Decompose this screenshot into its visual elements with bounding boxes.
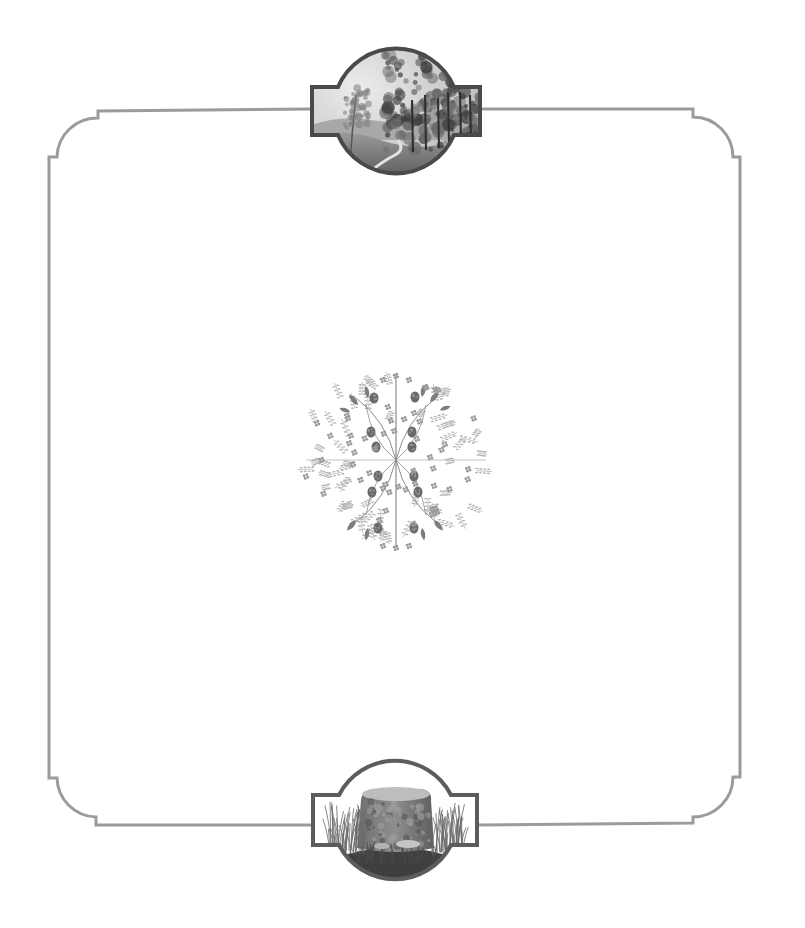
flower-petal	[467, 476, 470, 479]
fern-leaflet	[328, 462, 331, 464]
stump-texture	[416, 803, 424, 811]
flower-petal	[432, 486, 435, 489]
flower-petal	[405, 419, 408, 422]
flower-petal	[386, 407, 389, 410]
raspberry-drupelet	[412, 529, 414, 531]
fern-leaflet	[441, 424, 444, 426]
fern-leaflet	[460, 517, 463, 519]
fern-leaflet	[382, 539, 385, 541]
fern-leaflet	[446, 426, 449, 428]
fern-leaflet	[300, 467, 303, 469]
flower-petal	[323, 491, 326, 494]
forest-foliage	[400, 103, 405, 108]
flower-petal	[403, 487, 406, 490]
flower-petal	[383, 431, 386, 434]
flower-petal	[414, 437, 417, 440]
raspberry-drupelet	[371, 428, 373, 430]
flower-petal	[399, 486, 402, 489]
flower-petal	[347, 412, 350, 415]
forest-foliage	[390, 118, 401, 129]
flower-petal	[377, 521, 380, 524]
fern-leaflet	[337, 474, 340, 476]
raspberry-drupelet	[376, 398, 378, 400]
flower-petal	[419, 418, 422, 421]
fern-leaflet	[340, 481, 343, 483]
stump-texture	[416, 830, 421, 835]
fern-leaflet	[442, 494, 445, 496]
forest-foliage	[407, 115, 416, 124]
fern-leaflet	[363, 384, 366, 386]
fern-leaflet	[333, 475, 336, 477]
forest-foliage	[403, 78, 408, 83]
fern-leaflet	[405, 534, 408, 536]
forest-foliage	[428, 147, 433, 152]
flower-petal	[394, 428, 397, 431]
flower-petal	[402, 420, 405, 423]
fern-leaflet	[339, 487, 342, 489]
fern-leaflet	[338, 506, 341, 508]
flower-petal	[370, 472, 373, 475]
flower-petal	[435, 513, 438, 516]
fern-leaflet	[442, 490, 445, 492]
fern-leaflet	[367, 382, 370, 384]
raspberry-drupelet	[418, 493, 420, 495]
fern-leaflet	[370, 536, 373, 538]
fern-leaflet	[347, 430, 350, 432]
raspberry-drupelet	[415, 528, 417, 530]
flower-petal	[465, 467, 468, 470]
flower-petal	[433, 483, 436, 486]
fern-leaflet	[367, 519, 370, 521]
flower-petal	[409, 545, 412, 548]
fern-leaflet	[435, 420, 438, 422]
raspberry-drupelet	[376, 444, 378, 446]
raspberry-drupelet	[376, 473, 378, 475]
flower-petal	[384, 433, 387, 436]
stump-texture	[399, 823, 402, 826]
fern-stem	[321, 486, 329, 488]
flower-petal	[347, 444, 350, 447]
flower-petal	[395, 373, 398, 376]
fern-leaflet	[359, 387, 362, 389]
fern-leaflet	[345, 503, 348, 505]
flower-petal	[422, 385, 425, 388]
fern-leaflet	[362, 513, 365, 515]
fern-leaflet	[342, 427, 345, 429]
forest-foliage	[411, 89, 417, 95]
fern-leaflet	[386, 415, 389, 417]
forest-foliage	[394, 62, 402, 70]
stump-texture	[381, 802, 385, 806]
flower-petal	[401, 417, 404, 420]
flower-petal	[408, 377, 411, 380]
fern-leaflet	[405, 525, 408, 527]
forest-foliage	[413, 80, 418, 85]
fern-leaflet	[304, 471, 307, 473]
fern-leaflet	[457, 518, 460, 520]
raspberry	[408, 442, 417, 453]
flower-petal	[350, 443, 353, 446]
fern-leaflet	[327, 466, 330, 468]
forest-foliage	[464, 104, 468, 108]
flower-petal	[380, 378, 383, 381]
fern-leaflet	[445, 439, 448, 441]
birch-foliage	[360, 104, 366, 110]
raspberry-drupelet	[419, 489, 421, 491]
fern-leaflet	[362, 525, 365, 527]
flower-petal	[365, 438, 368, 441]
fern-leaflet	[431, 421, 434, 423]
fern-leaflet	[315, 416, 318, 418]
fern-leaflet	[336, 484, 339, 486]
stump-texture	[379, 831, 382, 834]
raspberry-drupelet	[370, 489, 372, 491]
fern-leaflet	[442, 440, 445, 442]
fern-leaflet	[329, 476, 332, 478]
flower-petal	[449, 486, 452, 489]
forest-foliage	[467, 114, 478, 125]
fern-leaflet	[341, 501, 344, 503]
forest-foliage	[382, 66, 394, 78]
fern-leaflet	[383, 536, 386, 538]
forest-foliage	[418, 125, 428, 135]
raspberry-drupelet	[373, 431, 375, 433]
flower-petal	[442, 442, 445, 445]
mushroom	[374, 843, 390, 849]
tree-trunk	[460, 92, 461, 140]
